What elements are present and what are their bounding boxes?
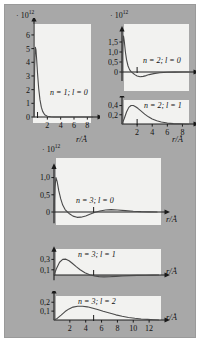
svg-text:6: 6 <box>165 128 169 136</box>
svg-text:4: 4 <box>150 128 154 136</box>
svg-text:0,2: 0,2 <box>40 298 50 307</box>
x-axis-title-panel-6: r/Å <box>166 313 177 322</box>
svg-text:0,2: 0,2 <box>108 111 118 120</box>
curve-label-n2-l0: n = 2; l = 0 <box>143 57 181 65</box>
svg-text:10: 10 <box>129 324 137 333</box>
svg-text:6: 6 <box>26 31 30 40</box>
svg-text:6: 6 <box>100 324 104 333</box>
svg-text:6: 6 <box>72 121 76 130</box>
svg-text:0,1: 0,1 <box>40 266 50 275</box>
svg-text:0: 0 <box>26 113 30 122</box>
svg-text:4: 4 <box>59 121 63 130</box>
x-axis-title-panel-5: r/Å <box>166 267 177 276</box>
svg-text:0,5: 0,5 <box>108 58 118 67</box>
x-axis-title-panel-3: r/Å <box>172 135 183 144</box>
x-axis-title-panel-4: r/Å <box>166 215 177 224</box>
curve-label-n3-l1: n = 3; l = 1 <box>78 251 116 259</box>
x-axis-title-panel-1: r/Å <box>76 135 87 144</box>
svg-text:8: 8 <box>115 324 119 333</box>
svg-text:3: 3 <box>26 72 30 81</box>
svg-text:12: 12 <box>145 324 153 333</box>
svg-text:0: 0 <box>46 208 50 217</box>
svg-text:4: 4 <box>84 324 88 333</box>
svg-text:1: 1 <box>26 99 30 108</box>
plot-area-n1-l0: 24680123456 <box>20 18 100 136</box>
svg-text:0: 0 <box>114 68 118 77</box>
svg-text:0,5: 0,5 <box>40 191 50 200</box>
svg-text:8: 8 <box>85 121 89 130</box>
svg-text:2: 2 <box>26 86 30 95</box>
figure-plate: · 1012 24680123456 n = 1; l = 0 r/Å · 10… <box>4 4 196 338</box>
svg-text:1,5: 1,5 <box>108 38 118 47</box>
svg-text:5: 5 <box>26 45 30 54</box>
curve-label-n2-l1: n = 2; l = 1 <box>144 102 182 110</box>
curve-label-n1-l0: n = 1; l = 0 <box>50 89 88 97</box>
svg-text:1,0: 1,0 <box>40 173 50 182</box>
svg-text:4: 4 <box>26 58 30 67</box>
svg-text:0,3: 0,3 <box>40 255 50 264</box>
svg-text:2: 2 <box>68 324 72 333</box>
svg-text:0,4: 0,4 <box>108 101 118 110</box>
svg-text:0,1: 0,1 <box>40 307 50 316</box>
radial-distribution-figure: · 1012 24680123456 n = 1; l = 0 r/Å · 10… <box>0 0 202 342</box>
svg-text:1,0: 1,0 <box>108 48 118 57</box>
curve-label-n3-l2: n = 3; l = 2 <box>78 298 116 306</box>
curve-label-n3-l0: n = 3; l = 0 <box>76 197 114 205</box>
svg-text:2: 2 <box>135 128 139 136</box>
svg-text:2: 2 <box>45 121 49 130</box>
